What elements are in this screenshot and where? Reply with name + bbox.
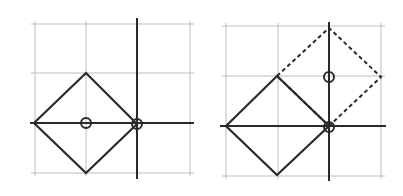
left-panel <box>30 18 194 179</box>
rotation-diagram <box>0 0 403 196</box>
right-panel <box>220 22 386 181</box>
